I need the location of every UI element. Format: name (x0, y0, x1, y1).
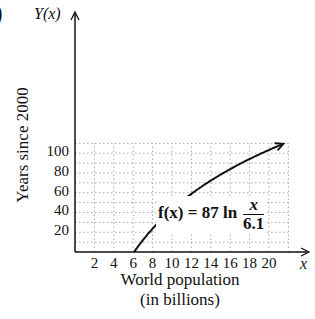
formula-lhs: f(x) = 87 ln (158, 203, 237, 222)
y-tick-label: 20 (39, 222, 69, 239)
x-axis-variable: x (300, 255, 307, 273)
x-axis-title-line2: (in billions) (80, 290, 280, 310)
y-tick-label: 40 (39, 202, 69, 219)
formula-numerator: x (243, 196, 264, 215)
formula-fraction: x6.1 (243, 196, 264, 233)
y-tick-label: 100 (39, 143, 69, 160)
y-tick-label: 60 (39, 183, 69, 200)
y-tick-label: 80 (39, 163, 69, 180)
formula-denominator: 6.1 (243, 215, 264, 233)
x-axis-title-line1: World population (80, 270, 280, 290)
function-formula: f(x) = 87 lnx6.1 (156, 196, 266, 233)
